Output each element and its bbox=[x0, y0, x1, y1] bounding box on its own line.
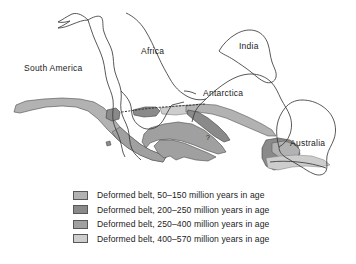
legend-label-400-570: Deformed belt, 400–570 million years in … bbox=[97, 234, 269, 244]
legend-item-belt-200-250: Deformed belt, 200–250 million years in … bbox=[73, 203, 356, 217]
legend-label-250-400: Deformed belt, 250–400 million years in … bbox=[97, 219, 269, 229]
legend: Deformed belt, 50–150 million years in a… bbox=[0, 188, 356, 264]
gondwana-map: ? South America Africa India Antarctica … bbox=[0, 0, 356, 186]
legend-swatch-icon-200-250 bbox=[73, 205, 88, 214]
outline-antarctica-spur bbox=[184, 91, 196, 94]
label-australia: Australia bbox=[290, 138, 325, 148]
legend-swatch-icon-50-150 bbox=[73, 191, 88, 200]
belt-sa-spot-200-250 bbox=[106, 141, 111, 146]
legend-swatch-icon-250-400 bbox=[73, 220, 88, 229]
belt-australia-south-400-570 bbox=[266, 155, 330, 170]
map-area: ? South America Africa India Antarctica … bbox=[0, 0, 356, 186]
label-india: India bbox=[239, 41, 259, 51]
legend-item-belt-50-150: Deformed belt, 50–150 million years in a… bbox=[73, 188, 356, 202]
legend-swatch-icon-400-570 bbox=[73, 234, 88, 243]
label-antarctica: Antarctica bbox=[203, 88, 243, 98]
gondwana-figure: ? South America Africa India Antarctica … bbox=[0, 0, 356, 264]
legend-item-belt-250-400: Deformed belt, 250–400 million years in … bbox=[73, 217, 356, 231]
uncertainty-marker: ? bbox=[206, 134, 210, 141]
outline-africa-horn bbox=[172, 102, 184, 105]
label-africa: Africa bbox=[141, 46, 164, 56]
label-south-america: South America bbox=[24, 63, 83, 73]
outline-india bbox=[219, 30, 276, 83]
legend-label-50-150: Deformed belt, 50–150 million years in a… bbox=[97, 190, 265, 200]
legend-item-belt-400-570: Deformed belt, 400–570 million years in … bbox=[73, 232, 356, 246]
legend-label-200-250: Deformed belt, 200–250 million years in … bbox=[97, 205, 269, 215]
